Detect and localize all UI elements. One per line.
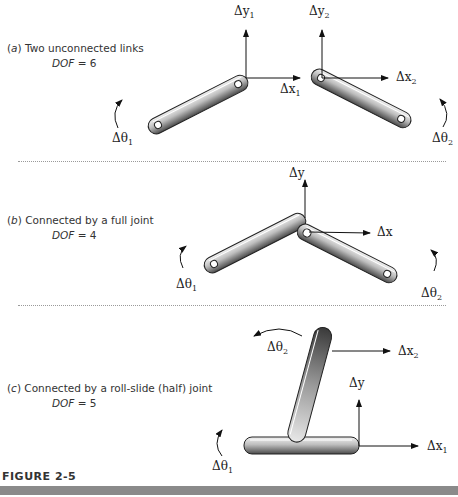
panel-a-link-1 bbox=[145, 72, 250, 136]
label-delta-y: Δy bbox=[349, 376, 364, 390]
panel-a-letter: a bbox=[11, 42, 17, 54]
panel-a-dof: DOF = 6 bbox=[52, 57, 97, 69]
separator-1 bbox=[18, 161, 446, 162]
panel-c-caption: (c) Connected by a roll-slide (half) joi… bbox=[7, 382, 212, 394]
label-delta-theta1: Δθ1 bbox=[112, 131, 133, 147]
panel-b-axes bbox=[305, 180, 370, 233]
label-delta-x2: Δx2 bbox=[396, 70, 417, 86]
label-delta-x1: Δx1 bbox=[280, 82, 301, 98]
label-delta-theta2: Δθ2 bbox=[421, 286, 442, 302]
panel-a-caption: (a) Two unconnected links bbox=[7, 42, 144, 54]
label-delta-theta1: Δθ1 bbox=[176, 277, 197, 293]
label-delta-y: Δy bbox=[289, 166, 304, 180]
label-delta-theta2: Δθ2 bbox=[267, 340, 288, 356]
label-delta-x1: Δx1 bbox=[427, 439, 448, 455]
figure-bar bbox=[0, 486, 458, 495]
separator-2 bbox=[18, 305, 446, 306]
label-delta-x: Δx bbox=[377, 225, 392, 239]
dof-value: = 5 bbox=[78, 397, 97, 409]
panel-b-letter: b bbox=[11, 214, 18, 226]
panel-c-letter: c bbox=[11, 382, 17, 394]
panel-b-caption: (b) Connected by a full joint bbox=[7, 214, 154, 226]
diagram-canvas bbox=[0, 0, 458, 497]
label-delta-theta1: Δθ1 bbox=[212, 459, 233, 475]
dof-label: DOF bbox=[52, 229, 74, 241]
panel-c-caption-text: Connected by a roll-slide (half) joint bbox=[24, 382, 212, 394]
panel-b-caption-text: Connected by a full joint bbox=[25, 214, 153, 226]
panel-c-dof: DOF = 5 bbox=[52, 397, 97, 409]
panel-c-link-2 bbox=[286, 325, 334, 444]
label-delta-x2: Δx2 bbox=[398, 344, 419, 360]
panel-b-link-1 bbox=[201, 211, 308, 276]
dof-label: DOF bbox=[52, 397, 74, 409]
panel-c-axes bbox=[332, 351, 418, 446]
figure-title: FIGURE 2-5 bbox=[2, 470, 76, 483]
panel-b-dof: DOF = 4 bbox=[52, 229, 97, 241]
label-delta-theta2: Δθ2 bbox=[432, 131, 453, 147]
panel-a-caption-text: Two unconnected links bbox=[25, 42, 144, 54]
dof-value: = 6 bbox=[78, 57, 97, 69]
label-delta-y1: Δy1 bbox=[234, 4, 255, 20]
dof-label: DOF bbox=[52, 57, 74, 69]
dof-value: = 4 bbox=[78, 229, 97, 241]
label-delta-y2: Δy2 bbox=[309, 4, 330, 20]
